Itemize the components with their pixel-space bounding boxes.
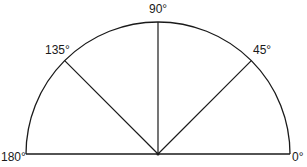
- radius-45: [158, 61, 251, 154]
- center-point: [156, 152, 159, 155]
- label-45: 45°: [253, 43, 271, 57]
- label-90: 90°: [149, 2, 167, 16]
- protractor-diagram: 90° 45° 135° 180° 0°: [0, 0, 307, 167]
- radius-135: [65, 61, 158, 154]
- label-135: 135°: [45, 43, 70, 57]
- label-0: 0°: [292, 150, 304, 164]
- label-180: 180°: [1, 150, 26, 164]
